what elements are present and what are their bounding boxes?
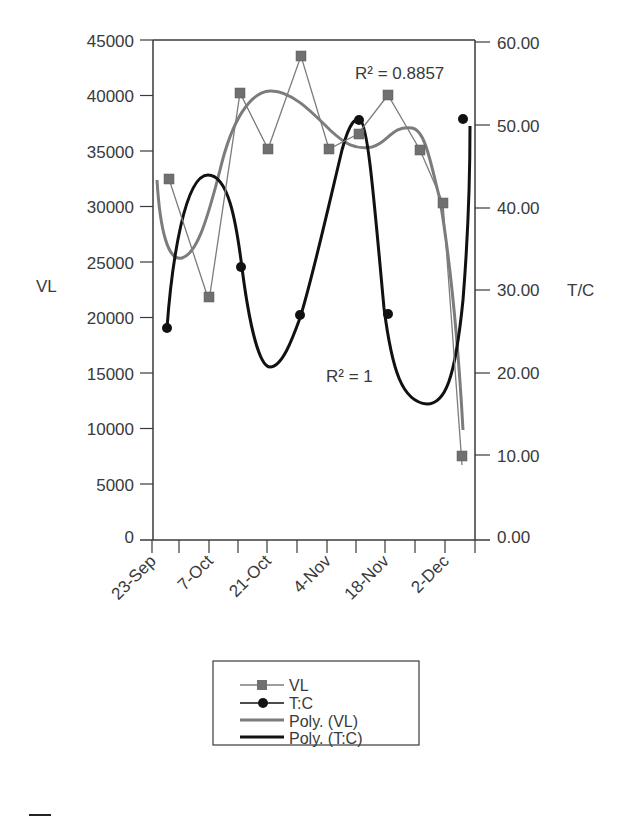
left-axis: 45000 40000 35000 30000 25000 20000 1500…: [36, 32, 153, 547]
left-tick-label: 45000: [87, 32, 134, 51]
vl-marker: [235, 88, 245, 98]
right-tick-label: 30.00: [497, 281, 540, 300]
legend-label: T:C: [289, 695, 313, 712]
x-tick-label: 21-Oct: [225, 551, 275, 601]
legend-label: Poly. (T:C): [289, 730, 362, 747]
left-tick-label: 40000: [87, 87, 134, 106]
right-tick-label: 20.00: [497, 364, 540, 383]
legend: VL T:C Poly. (VL) Poly. (T:C): [213, 661, 419, 747]
x-tick-label: 4-Nov: [289, 551, 335, 597]
right-axis-title: T/C: [567, 281, 594, 300]
legend-label: VL: [289, 677, 309, 694]
left-tick-label: 0: [125, 528, 134, 547]
left-tick-label: 5000: [96, 476, 134, 495]
right-tick-label: 10.00: [497, 447, 540, 466]
x-tick-label: 2-Dec: [407, 551, 453, 597]
right-tick-label: 60.00: [497, 34, 540, 53]
circle-marker-icon: [258, 698, 268, 708]
x-tick-label: 23-Sep: [108, 551, 160, 603]
legend-label: Poly. (VL): [289, 713, 358, 730]
vl-marker: [204, 292, 214, 302]
x-tick-label: 18-Nov: [341, 551, 394, 604]
left-tick-label: 25000: [87, 254, 134, 273]
vl-marker: [415, 145, 425, 155]
x-axis: 23-Sep 7-Oct 21-Oct 4-Nov 18-Nov 2-Dec: [108, 540, 475, 604]
poly-vl-trendline: [157, 91, 463, 430]
vl-marker: [457, 451, 467, 461]
tc-marker: [458, 114, 468, 124]
chart: 45000 40000 35000 30000 25000 20000 1500…: [0, 0, 628, 816]
tc-marker: [295, 310, 305, 320]
left-axis-title: VL: [36, 277, 57, 296]
x-tick-label: 7-Oct: [174, 551, 217, 594]
tc-marker: [236, 262, 246, 272]
left-tick-label: 15000: [87, 365, 134, 384]
vl-marker: [354, 129, 364, 139]
right-tick-label: 0.00: [497, 528, 530, 547]
left-tick-label: 30000: [87, 198, 134, 217]
right-axis: 60.00 50.00 40.00 30.00 20.00 10.00 0.00…: [475, 34, 594, 547]
vl-marker: [438, 198, 448, 208]
left-tick-label: 35000: [87, 143, 134, 162]
vl-marker: [263, 144, 273, 154]
r2-tc-annotation: R² = 1: [326, 367, 373, 386]
right-tick-label: 50.00: [497, 117, 540, 136]
square-marker-icon: [257, 680, 267, 690]
vl-marker: [296, 51, 306, 61]
vl-marker: [324, 144, 334, 154]
vl-marker: [164, 174, 174, 184]
left-tick-label: 20000: [87, 309, 134, 328]
poly-tc-trendline: [167, 119, 470, 404]
tc-marker: [383, 309, 393, 319]
left-tick-label: 10000: [87, 420, 134, 439]
r2-vl-annotation: R² = 0.8857: [355, 64, 444, 83]
tc-marker: [162, 323, 172, 333]
vl-marker: [383, 90, 393, 100]
tc-marker: [354, 115, 364, 125]
right-tick-label: 40.00: [497, 199, 540, 218]
